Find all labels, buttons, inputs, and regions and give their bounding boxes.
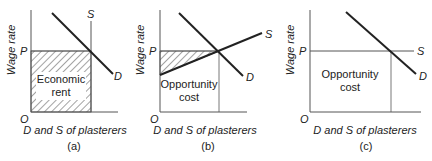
- panel-c: S D P O Wage rate D and S of plasterers …: [284, 10, 427, 152]
- panel-caption: (b): [201, 140, 214, 152]
- price-label: P: [20, 45, 28, 57]
- y-axis-label: Wage rate: [5, 25, 17, 76]
- panel-a: S D P O Wage rate D and S of plasterers …: [5, 8, 127, 152]
- price-label: P: [299, 45, 307, 57]
- y-axis-label: Wage rate: [284, 25, 296, 76]
- economic-rent-diagrams: S D P O Wage rate D and S of plasterers …: [0, 0, 432, 161]
- panel-caption: (a): [67, 140, 80, 152]
- origin-label: O: [300, 113, 309, 125]
- supply-label: S: [87, 8, 95, 20]
- x-axis-label: D and S of plasterers: [313, 124, 417, 136]
- price-label: P: [149, 45, 157, 57]
- area-label-line2: cost: [179, 91, 199, 103]
- demand-label: D: [419, 70, 427, 82]
- demand-label: D: [114, 70, 122, 82]
- area-label-line1: Economic: [37, 73, 86, 85]
- area-label-line1: Opportunity: [322, 68, 379, 80]
- supply-label: S: [417, 45, 425, 57]
- demand-label: D: [246, 71, 254, 83]
- y-axis-label: Wage rate: [134, 25, 146, 76]
- supply-label: S: [265, 28, 273, 40]
- area-label-line1: Opportunity: [161, 78, 218, 90]
- panel-b: S D P O Wage rate D and S of plasterers …: [134, 10, 273, 152]
- panel-caption: (c): [360, 140, 373, 152]
- x-axis-label: D and S of plasterers: [23, 124, 127, 136]
- demand-curve: [346, 12, 416, 74]
- area-label-line2: rent: [52, 86, 71, 98]
- area-label-line2: cost: [340, 81, 360, 93]
- x-axis-label: D and S of plasterers: [153, 124, 257, 136]
